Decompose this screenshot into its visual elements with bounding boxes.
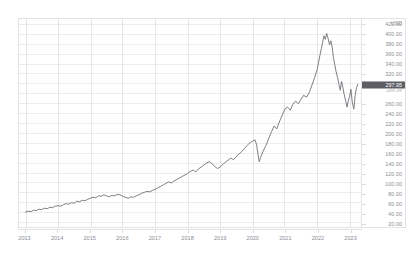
year-axis-label: 2020	[247, 235, 259, 242]
price-tick-mark	[362, 144, 366, 145]
price-tick-label: 80.00	[388, 191, 402, 197]
price-tick-mark	[362, 184, 366, 185]
price-tick-mark	[362, 154, 366, 155]
year-axis-tick	[155, 230, 156, 233]
year-axis-label: 2023	[344, 235, 356, 242]
price-tick-mark	[362, 194, 366, 195]
price-tick-mark	[362, 34, 366, 35]
price-tick-label: 120.00	[385, 171, 402, 177]
price-tick-label: 320.00	[385, 71, 402, 77]
year-axis-label: 2016	[116, 235, 128, 242]
price-tick-label: 260.00	[385, 101, 402, 107]
price-series-line	[19, 19, 361, 227]
year-axis-tick	[318, 230, 319, 233]
price-tick-mark	[362, 214, 366, 215]
price-tick-label: 180.00	[385, 141, 402, 147]
price-axis-panel[interactable]: USD 420.00400.00380.00360.00340.00320.00…	[362, 18, 406, 228]
price-tick-label: 220.00	[385, 121, 402, 127]
price-tick-mark	[362, 124, 366, 125]
price-tick-mark	[362, 114, 366, 115]
price-tick-label: 140.00	[385, 161, 402, 167]
year-axis-tick	[220, 230, 221, 233]
price-tick-label: 60.00	[388, 201, 402, 207]
previous-close-label: 288.94	[386, 87, 402, 93]
price-tick-mark	[362, 204, 366, 205]
price-tick-mark	[362, 224, 366, 225]
year-axis-tick	[351, 230, 352, 233]
price-tick-label: 160.00	[385, 151, 402, 157]
year-axis-label: 2013	[18, 235, 30, 242]
price-tick-mark	[362, 24, 366, 25]
stock-price-chart: USD 420.00400.00380.00360.00340.00320.00…	[0, 0, 409, 255]
price-tick-mark	[362, 164, 366, 165]
price-tick-mark	[362, 134, 366, 135]
year-axis-label: 2022	[312, 235, 324, 242]
year-axis-tick	[25, 230, 26, 233]
year-axis-label: 2015	[84, 235, 96, 242]
year-axis-tick	[122, 230, 123, 233]
price-tick-label: 360.00	[385, 51, 402, 57]
price-tick-mark	[362, 54, 366, 55]
price-tick-label: 380.00	[385, 41, 402, 47]
year-axis-label: 2021	[279, 235, 291, 242]
price-tick-label: 200.00	[385, 131, 402, 137]
price-tick-label: 100.00	[385, 181, 402, 187]
price-tick-label: 40.00	[388, 211, 402, 217]
year-axis-label: 2018	[181, 235, 193, 242]
price-tick-mark	[362, 44, 366, 45]
price-tick-mark	[362, 104, 366, 105]
price-tick-label: 340.00	[385, 61, 402, 67]
price-tick-mark	[362, 74, 366, 75]
year-axis-label: 2014	[51, 235, 63, 242]
price-tick-label: 240.00	[385, 111, 402, 117]
price-tick-label: 20.00	[388, 221, 402, 227]
year-axis-label: 2017	[149, 235, 161, 242]
year-axis-tick	[253, 230, 254, 233]
price-tick-mark	[362, 174, 366, 175]
chart-plot-area[interactable]	[18, 18, 362, 228]
price-tick-label: 420.00	[385, 21, 402, 27]
price-tick-label: 400.00	[385, 31, 402, 37]
year-axis-tick	[90, 230, 91, 233]
year-axis-tick	[57, 230, 58, 233]
year-axis-label: 2019	[214, 235, 226, 242]
time-axis-panel[interactable]: 2013201420152016201720182019202020212022…	[18, 229, 362, 247]
year-axis-tick	[188, 230, 189, 233]
year-axis-tick	[285, 230, 286, 233]
price-tick-mark	[362, 64, 366, 65]
